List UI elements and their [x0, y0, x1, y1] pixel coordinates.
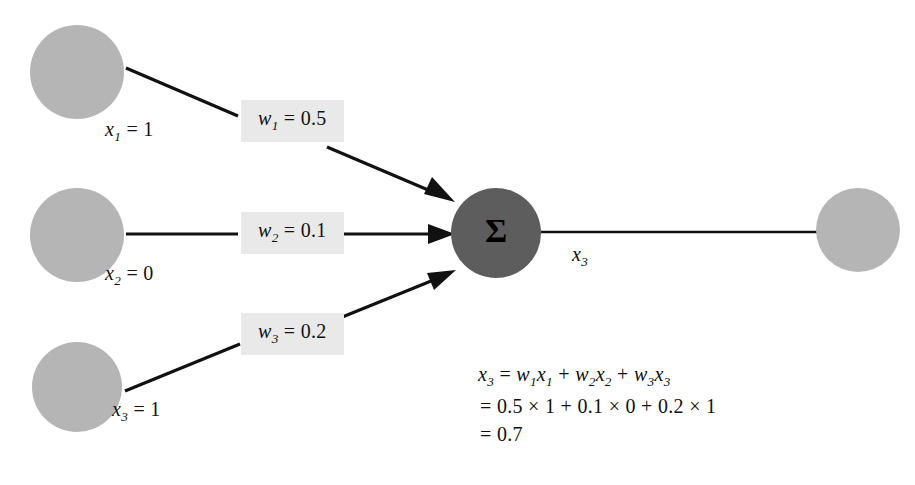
neural-neuron-diagram: Σ x1 = 1 x2 = 0 x3 = 1 w1 = 0.5 w2 = 0.1…: [0, 0, 915, 485]
input-label-x1: x1 = 1: [105, 118, 154, 145]
input-label-x2: x2 = 0: [105, 262, 154, 289]
formula-line-1: x3 = w1x1 + w2x2 + w3x3: [478, 360, 716, 392]
formula-line-2: = 0.5 × 1 + 0.1 × 0 + 0.2 × 1: [478, 392, 716, 420]
sigma-icon: Σ: [485, 212, 507, 249]
formula-line-1-rhs: = w1x1 + w2x2 + w3x3: [499, 363, 670, 385]
edge-sum-to-output: [541, 221, 861, 243]
arrowhead-x3: [427, 270, 456, 290]
arrowhead-x2: [428, 224, 455, 244]
arrowhead-x1: [424, 177, 455, 202]
output-node[interactable]: [816, 188, 900, 272]
input-node-x1[interactable]: [30, 25, 124, 119]
weight-chip-w1[interactable]: w1 = 0.5: [241, 100, 344, 142]
input-label-x3: x3 = 1: [112, 398, 161, 425]
edge-x3-segment-left: [125, 344, 240, 391]
weight-chip-w2[interactable]: w2 = 0.1: [241, 212, 344, 254]
formula-block: x3 = w1x1 + w2x2 + w3x3 = 0.5 × 1 + 0.1 …: [478, 360, 716, 449]
formula-line-3: = 0.7: [478, 420, 716, 448]
input-node-x3[interactable]: [32, 342, 122, 432]
output-edge-label: x3: [572, 243, 588, 270]
edge-x1-segment-left: [126, 68, 238, 116]
weight-chip-w3[interactable]: w3 = 0.2: [241, 313, 344, 355]
edge-x1-segment-right: [327, 147, 440, 195]
edge-x3-segment-right: [330, 277, 441, 322]
